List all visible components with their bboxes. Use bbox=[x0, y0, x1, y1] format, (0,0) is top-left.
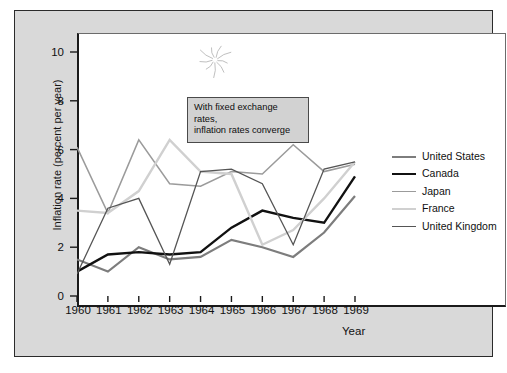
legend-swatch-icon bbox=[391, 221, 417, 231]
y-tick-label: 8 bbox=[38, 95, 64, 107]
y-tick-label: 2 bbox=[38, 241, 64, 253]
figure-panel: Inflation rate (percent per year) With f… bbox=[14, 10, 493, 357]
legend-label: Japan bbox=[417, 185, 451, 197]
legend-label: Canada bbox=[417, 167, 459, 179]
convergence-annotation: With fixed exchange rates, inflation rat… bbox=[187, 97, 309, 143]
legend-swatch-icon bbox=[391, 168, 417, 178]
legend-label: France bbox=[417, 202, 455, 214]
legend-swatch-icon bbox=[391, 186, 417, 196]
legend-swatch-icon bbox=[391, 203, 417, 213]
legend-item-united-states[interactable]: United States bbox=[391, 147, 503, 165]
legend-item-canada[interactable]: Canada bbox=[391, 165, 503, 183]
legend: United StatesCanadaJapanFranceUnited Kin… bbox=[391, 147, 503, 235]
legend-label: United Kingdom bbox=[417, 220, 497, 232]
legend-item-france[interactable]: France bbox=[391, 200, 503, 218]
y-tick-label: 6 bbox=[38, 144, 64, 156]
x-axis-title: Year bbox=[342, 325, 365, 337]
y-tick-label: 10 bbox=[38, 46, 64, 58]
annotation-line-2: inflation rates converge bbox=[194, 125, 303, 137]
legend-swatch-icon bbox=[391, 151, 417, 161]
chart-figure: Inflation rate (percent per year) With f… bbox=[0, 0, 507, 373]
x-tick-label: 1969 bbox=[333, 304, 379, 316]
annotation-line-1: With fixed exchange rates, bbox=[194, 102, 303, 125]
legend-item-japan[interactable]: Japan bbox=[391, 182, 503, 200]
y-tick-label: 4 bbox=[38, 192, 64, 204]
y-tick-label: 0 bbox=[38, 290, 64, 302]
legend-item-united-kingdom[interactable]: United Kingdom bbox=[391, 217, 503, 235]
legend-label: United States bbox=[417, 150, 485, 162]
